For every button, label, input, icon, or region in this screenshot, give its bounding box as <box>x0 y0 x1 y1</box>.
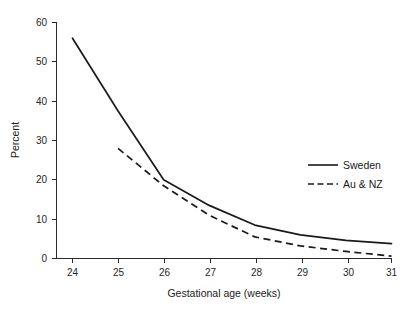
x-axis-title: Gestational age (weeks) <box>167 287 280 299</box>
line-chart: 0 10 20 30 40 50 60 24 25 26 27 28 29 30… <box>0 0 410 321</box>
y-axis-title: Percent <box>9 122 21 158</box>
x-tick-label-26: 26 <box>159 267 171 278</box>
y-tick-label-30: 30 <box>36 135 48 146</box>
x-tick-label-25: 25 <box>113 267 125 278</box>
legend-label-sweden: Sweden <box>343 159 381 171</box>
y-tick-label-20: 20 <box>36 174 48 185</box>
x-tick-label-31: 31 <box>386 267 398 278</box>
x-tick-label-27: 27 <box>205 267 217 278</box>
x-axis-ticks <box>73 259 392 264</box>
x-tick-label-29: 29 <box>297 267 309 278</box>
x-tick-label-28: 28 <box>251 267 263 278</box>
y-axis-ticks <box>52 23 57 259</box>
y-tick-label-10: 10 <box>36 214 48 225</box>
y-tick-label-50: 50 <box>36 56 48 67</box>
y-tick-label-0: 0 <box>41 253 47 264</box>
chart-figure: 0 10 20 30 40 50 60 24 25 26 27 28 29 30… <box>0 0 410 321</box>
chart-legend: Sweden Au & NZ <box>308 159 383 190</box>
y-tick-label-60: 60 <box>36 17 48 28</box>
legend-label-au-nz: Au & NZ <box>343 178 383 190</box>
x-tick-label-24: 24 <box>67 267 79 278</box>
y-tick-label-40: 40 <box>36 96 48 107</box>
x-tick-label-30: 30 <box>343 267 355 278</box>
series-line-sweden <box>73 38 392 243</box>
